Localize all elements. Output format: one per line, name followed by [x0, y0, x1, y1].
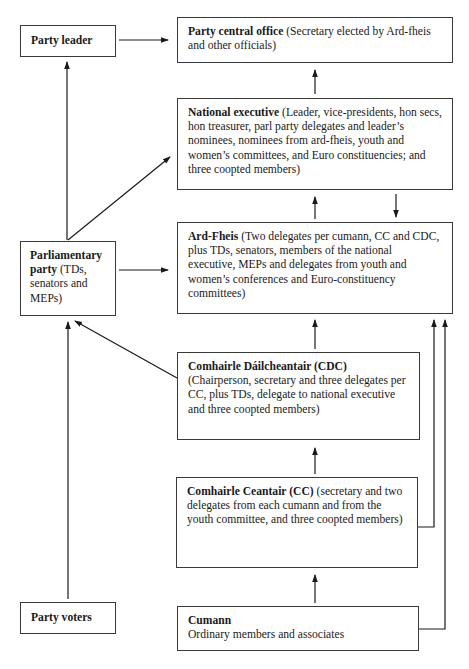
- node-title: Party voters: [31, 611, 92, 624]
- node-party-leader: Party leader: [20, 25, 116, 57]
- node-desc: Ordinary members and associates: [188, 628, 344, 641]
- node-title: Cumann: [188, 614, 408, 628]
- node-ard-fheis: Ard-Fheis (Two delegates per cumann, CC …: [177, 222, 453, 314]
- node-cdc: Comhairle Dáilcheantair (CDC)(Chairperso…: [177, 352, 420, 440]
- node-desc: (Chairperson, secretary and three delega…: [188, 374, 406, 415]
- node-cc: Comhairle Ceantair (CC) (secretary and t…: [176, 477, 418, 568]
- node-title: Comhairle Dáilcheantair (CDC): [188, 360, 409, 374]
- arrow-cdc-to-parl: [75, 321, 177, 378]
- node-parliamentary-party: Parliamentary party (TDs, senators and M…: [20, 241, 116, 316]
- node-party-voters: Party voters: [20, 602, 116, 634]
- arrow-parl-to-exec: [68, 157, 170, 240]
- arrow-cumann-to-ardfheis: [419, 320, 445, 629]
- node-title: Ard-Fheis: [188, 230, 238, 243]
- node-national-executive: National executive (Leader, vice-preside…: [177, 98, 453, 190]
- node-title: Comhairle Ceantair (CC): [187, 485, 314, 498]
- arrow-cc-to-ardfheis: [418, 320, 434, 527]
- node-party-central-office: Party central office (Secretary elected …: [177, 17, 453, 63]
- node-title: National executive: [188, 106, 279, 119]
- node-title: Party central office: [188, 25, 283, 38]
- node-title: Party leader: [31, 34, 92, 47]
- node-cumann: CumannOrdinary members and associates: [177, 606, 419, 651]
